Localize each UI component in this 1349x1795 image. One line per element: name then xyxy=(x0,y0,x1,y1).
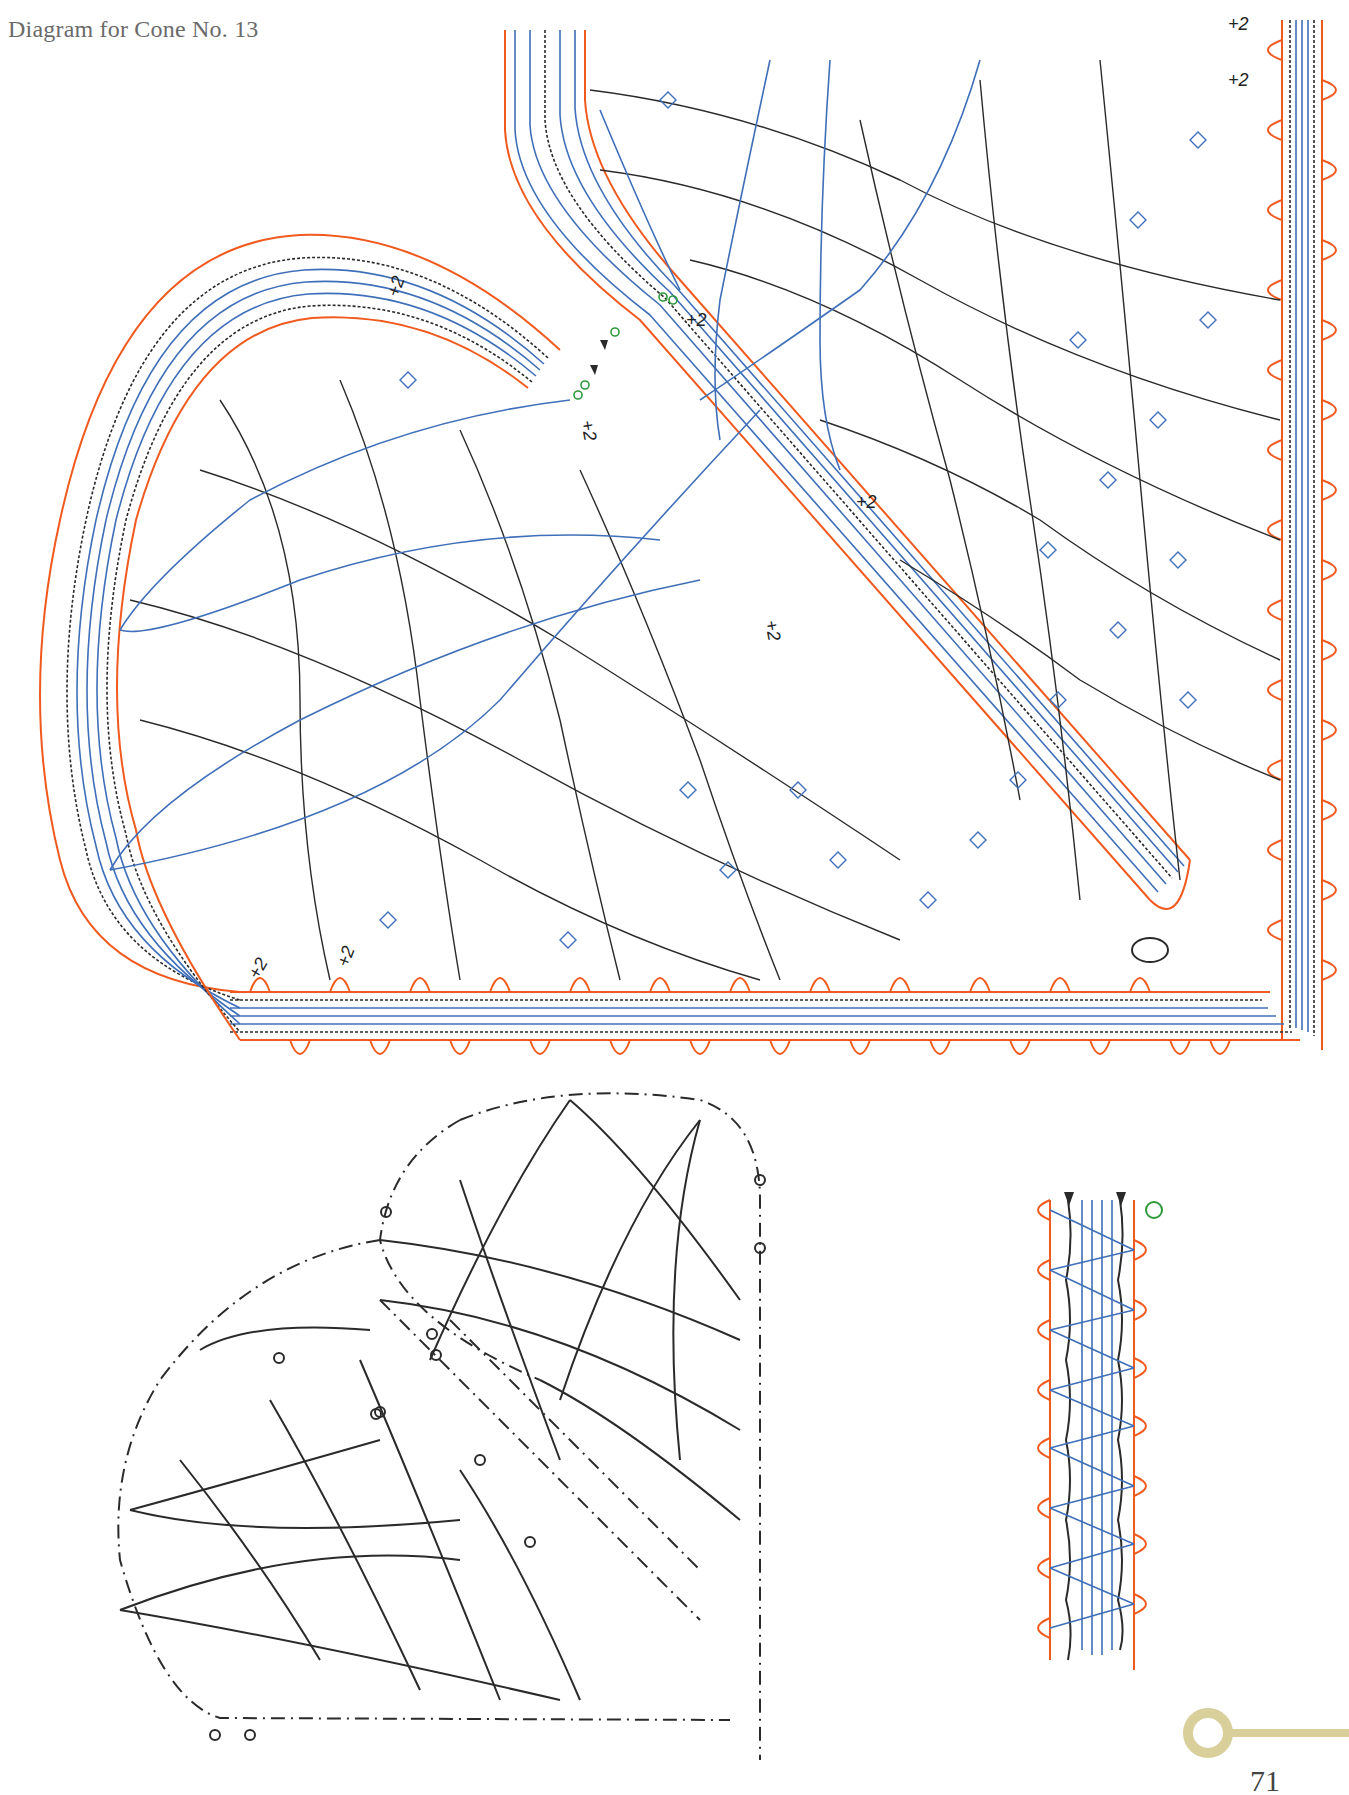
footside-detail-strip xyxy=(1020,1180,1170,1680)
page-ornament xyxy=(1180,1705,1349,1765)
page-number: 71 xyxy=(1250,1764,1280,1795)
